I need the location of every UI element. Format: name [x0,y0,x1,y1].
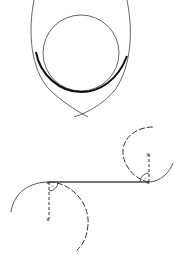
bold-tangent-arc [36,52,127,92]
left-right-angle-icon [49,182,58,191]
left-arc [11,182,49,212]
inscribed-circle [43,15,119,91]
right-arc [149,163,173,182]
left-right-angle-dot [52,185,53,186]
left-tangent-point-marker: × [46,179,50,186]
left-center-marker: × [46,216,50,223]
right-center-marker: × [146,151,150,158]
left-dashed-arc [49,182,88,250]
figure-lens-circle [31,0,130,117]
right-right-angle-dot [144,177,145,178]
diagram-canvas: × × × × [0,0,183,274]
right-outer-arc [74,0,130,117]
right-tangent-point-marker: × [146,179,150,186]
left-outer-arc [31,0,88,117]
figure-tangent-circles: × × × × [11,127,173,250]
